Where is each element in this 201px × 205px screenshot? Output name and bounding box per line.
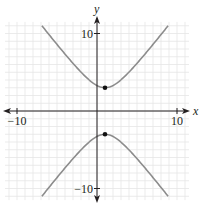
y-axis-label: y xyxy=(93,2,100,16)
lower-vertex-point xyxy=(103,132,108,137)
hyperbola-chart: −101010−10 x y xyxy=(0,0,201,205)
x-tick-label: −10 xyxy=(8,114,27,128)
upper-vertex-point xyxy=(103,85,108,90)
y-tick-label: −10 xyxy=(74,182,93,196)
axes xyxy=(3,16,190,203)
x-tick-label: 10 xyxy=(171,114,183,128)
y-tick-label: 10 xyxy=(81,27,93,41)
x-axis-label: x xyxy=(192,104,199,118)
